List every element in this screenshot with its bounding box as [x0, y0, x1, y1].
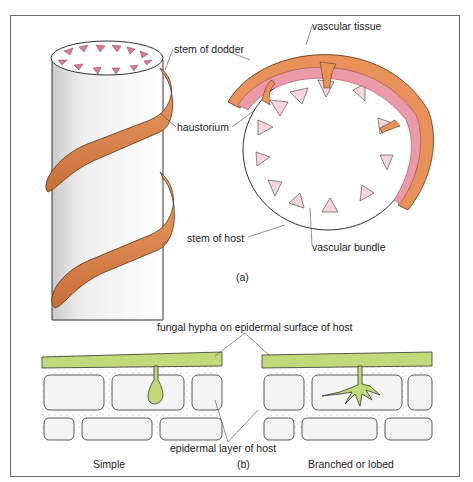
label-vascular-bundle: vascular bundle [312, 242, 386, 253]
label-fungal-hypha: fungal hypha on epidermal surface of hos… [157, 322, 353, 333]
label-stem-of-dodder: stem of dodder [174, 44, 244, 55]
epidermis-simple [42, 352, 222, 440]
label-simple: Simple [93, 459, 125, 470]
label-vascular-tissue: vascular tissue [312, 21, 381, 32]
label-branched-or-lobed: Branched or lobed [308, 459, 394, 470]
host-stem-cross-section [228, 55, 434, 230]
caption-b: (b) [237, 459, 250, 470]
epidermis-branched [262, 352, 432, 440]
label-haustorium: haustorium [177, 122, 229, 133]
caption-a: (a) [236, 272, 249, 283]
label-stem-of-host: stem of host [187, 233, 244, 244]
leader-lines-b [215, 333, 270, 442]
label-epidermal-layer: epidermal layer of host [170, 443, 276, 454]
